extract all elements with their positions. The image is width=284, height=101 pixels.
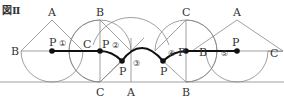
point-p1 bbox=[49, 48, 55, 54]
label-c1: C bbox=[83, 38, 91, 51]
label-n1: ① bbox=[59, 39, 66, 48]
locus-path bbox=[52, 48, 237, 61]
label-c5: C bbox=[270, 47, 278, 60]
label-n4: ④ bbox=[168, 49, 175, 58]
label-n2: ② bbox=[112, 41, 119, 50]
label-c4: C bbox=[182, 6, 190, 19]
point-p3 bbox=[119, 58, 125, 64]
label-p4: P bbox=[160, 65, 168, 78]
label-a3: A bbox=[126, 86, 136, 99]
rolling-triangle-diagram: 図Ⅱ A B C P ① B C P ② P ③ A ④ P P C B B A… bbox=[0, 0, 284, 101]
label-b1: B bbox=[11, 45, 19, 58]
circle-1 bbox=[21, 51, 83, 82]
figure-title: 図Ⅱ bbox=[2, 5, 20, 16]
point-p4 bbox=[160, 58, 166, 64]
label-p1: P bbox=[49, 36, 57, 49]
label-a5: A bbox=[232, 6, 242, 19]
label-pb: P bbox=[178, 46, 186, 59]
label-p3: P bbox=[119, 65, 127, 78]
label-n5: ⑤ bbox=[221, 49, 228, 58]
label-n3: ③ bbox=[133, 59, 140, 68]
label-bm: B bbox=[199, 46, 207, 59]
circle-5 bbox=[206, 51, 268, 82]
label-p2: P bbox=[102, 38, 110, 51]
point-p5 bbox=[234, 48, 240, 54]
label-c2: C bbox=[96, 86, 104, 99]
label-p5: P bbox=[232, 36, 240, 49]
label-b4: B bbox=[182, 86, 190, 99]
label-a1: A bbox=[47, 6, 57, 19]
label-b2: B bbox=[96, 6, 104, 19]
